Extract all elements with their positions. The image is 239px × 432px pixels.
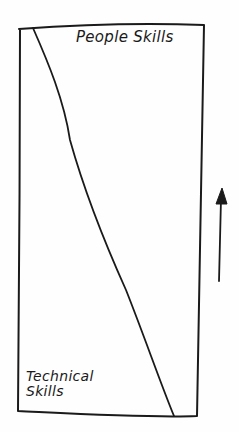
technical-skills-label-line1: Technical (26, 369, 94, 384)
frame-rectangle (18, 24, 204, 417)
arrow-up-icon (216, 188, 227, 281)
divider-curve (33, 28, 174, 416)
people-skills-label: People Skills (76, 30, 174, 46)
technical-skills-label-line2: Skills (26, 384, 94, 399)
technical-skills-label: Technical Skills (26, 369, 94, 398)
